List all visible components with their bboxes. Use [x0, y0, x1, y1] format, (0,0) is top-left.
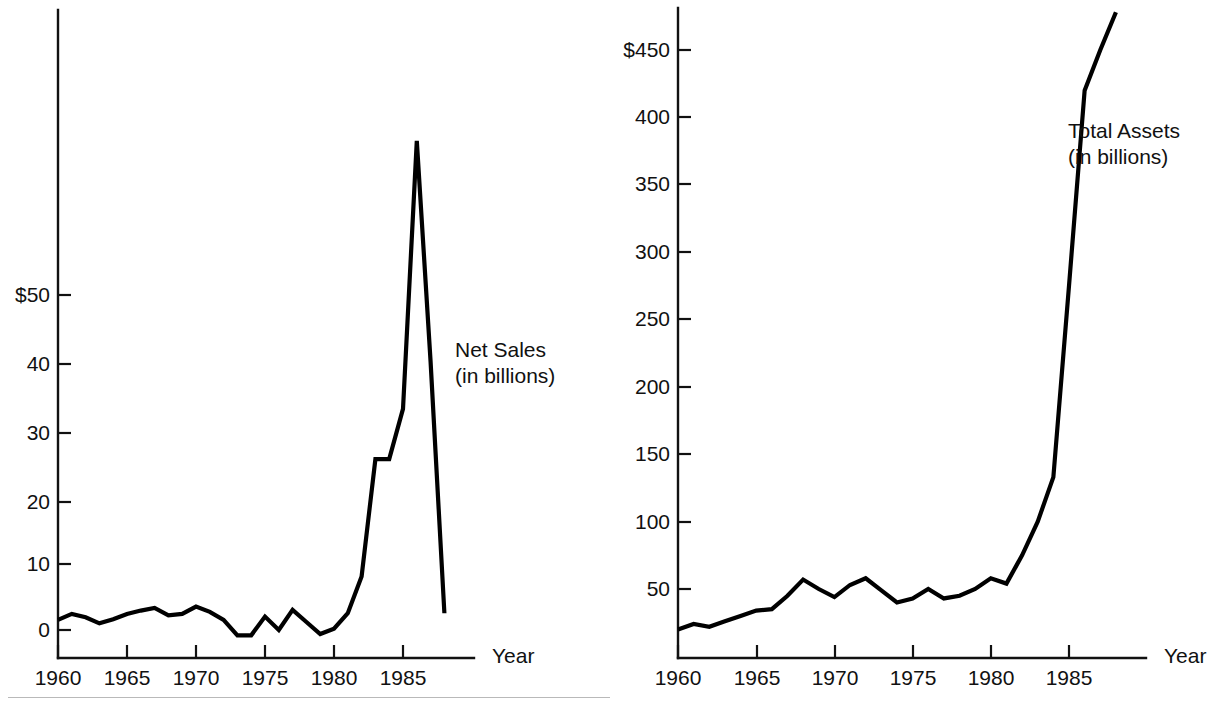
y-tick-label-net-sales-0: $50: [15, 283, 50, 306]
y-ticks-net-sales: [58, 295, 71, 630]
total-assets-svg: $450 400 350 300 250 200 150 100 50 1960…: [600, 0, 1219, 705]
x-tick-label-total-assets-4: 1980: [968, 666, 1015, 689]
x-tick-label-net-sales-1: 1965: [104, 666, 151, 689]
y-tick-label-net-sales-4: 10: [27, 552, 50, 575]
data-line-total-assets: [678, 12, 1116, 629]
y-tick-label-total-assets-6: 150: [635, 442, 670, 465]
y-tick-label-total-assets-2: 350: [635, 172, 670, 195]
y-tick-label-total-assets-1: 400: [635, 105, 670, 128]
series-label-total-assets-line1: Total Assets: [1068, 119, 1180, 142]
y-tick-label-total-assets-5: 200: [635, 375, 670, 398]
x-tick-label-net-sales-0: 1960: [35, 666, 82, 689]
x-tick-label-net-sales-2: 1970: [173, 666, 220, 689]
y-tick-label-net-sales-3: 20: [27, 490, 50, 513]
x-ticks-net-sales: [58, 645, 403, 658]
figure-two-line-charts: $50 40 30 20 10 0 1960 1965 1970 1975 19…: [0, 0, 1219, 705]
x-tick-label-net-sales-5: 1985: [380, 666, 427, 689]
x-axis-name-net-sales: Year: [492, 644, 534, 667]
x-tick-label-total-assets-5: 1985: [1046, 666, 1093, 689]
series-label-net-sales-line1: Net Sales: [455, 338, 546, 361]
y-ticks-total-assets: [678, 50, 691, 589]
x-tick-label-total-assets-0: 1960: [655, 666, 702, 689]
series-label-net-sales-line2: (in billions): [455, 364, 555, 387]
data-line-net-sales: [58, 141, 444, 635]
x-tick-label-net-sales-3: 1975: [242, 666, 289, 689]
chart-panel-net-sales: $50 40 30 20 10 0 1960 1965 1970 1975 19…: [0, 0, 610, 705]
series-label-total-assets-line2: (in billions): [1068, 145, 1168, 168]
y-tick-label-net-sales-2: 30: [27, 421, 50, 444]
chart-panel-total-assets: $450 400 350 300 250 200 150 100 50 1960…: [600, 0, 1219, 705]
x-tick-label-net-sales-4: 1980: [311, 666, 358, 689]
y-tick-label-total-assets-4: 250: [635, 307, 670, 330]
net-sales-svg: $50 40 30 20 10 0 1960 1965 1970 1975 19…: [0, 0, 610, 705]
y-tick-label-total-assets-7: 100: [635, 510, 670, 533]
y-tick-label-total-assets-0: $450: [623, 38, 670, 61]
x-tick-label-total-assets-2: 1970: [812, 666, 859, 689]
y-tick-label-net-sales-1: 40: [27, 352, 50, 375]
y-tick-label-total-assets-8: 50: [647, 577, 670, 600]
y-tick-label-total-assets-3: 300: [635, 240, 670, 263]
x-tick-label-total-assets-1: 1965: [734, 666, 781, 689]
x-tick-label-total-assets-3: 1975: [890, 666, 937, 689]
x-ticks-total-assets: [678, 645, 1069, 658]
x-axis-name-total-assets: Year: [1164, 644, 1206, 667]
page-bottom-rule: [8, 697, 610, 698]
y-tick-label-net-sales-5: 0: [38, 618, 50, 641]
